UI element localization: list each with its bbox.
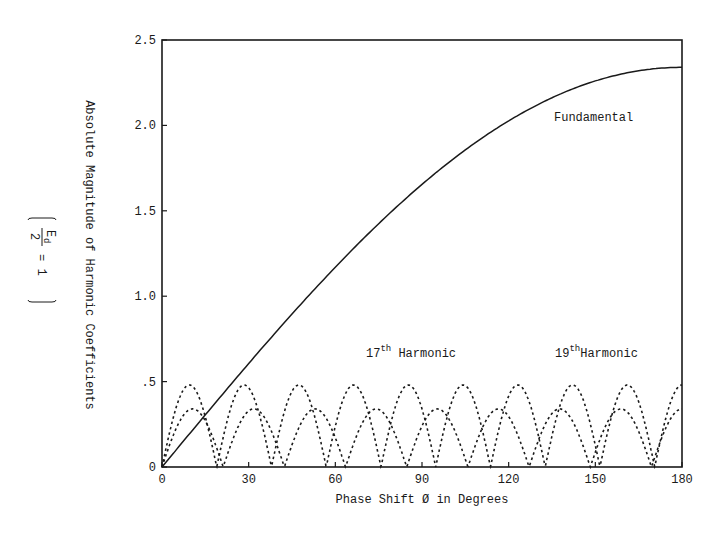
x-tick-label: 180 (671, 473, 693, 487)
fundamental-label: Fundamental (554, 111, 633, 125)
x-tick-label: 60 (328, 473, 342, 487)
y-tick-label: 0 (149, 461, 156, 475)
y-tick-label: .5 (142, 376, 156, 390)
plot-frame (162, 40, 682, 467)
note-denominator: 2 (27, 233, 41, 240)
y-axis-title: Absolute Magnitude of Harmonic Coefficie… (82, 100, 96, 410)
y-axis-normalization-note: E d 2 = 1 (27, 218, 57, 302)
x-axis-ticks: 0306090120150180 (158, 462, 692, 487)
x-tick-label: 150 (585, 473, 607, 487)
x-axis-title: Phase Shift Ø in Degrees (336, 493, 509, 507)
x-tick-label: 120 (498, 473, 520, 487)
plot-curves (162, 67, 682, 467)
x-tick-label: 90 (415, 473, 429, 487)
y-tick-label: 2.5 (134, 34, 156, 48)
y-tick-label: 1.0 (134, 290, 156, 304)
y-tick-label: 2.0 (134, 119, 156, 133)
harmonic-19-label: 19thHarmonic (555, 344, 638, 361)
y-tick-label: 1.5 (134, 205, 156, 219)
harmonic-17-label: 17th Harmonic (366, 344, 456, 361)
19th-harmonic-curve (162, 385, 682, 467)
x-tick-label: 30 (241, 473, 255, 487)
harmonic-magnitude-chart: 0306090120150180 0.51.01.52.02.5 Phase S… (0, 0, 711, 537)
note-equals: = 1 (34, 254, 48, 276)
x-tick-label: 0 (158, 473, 165, 487)
17th-harmonic-curve (162, 409, 682, 467)
note-numerator: E (43, 230, 57, 237)
